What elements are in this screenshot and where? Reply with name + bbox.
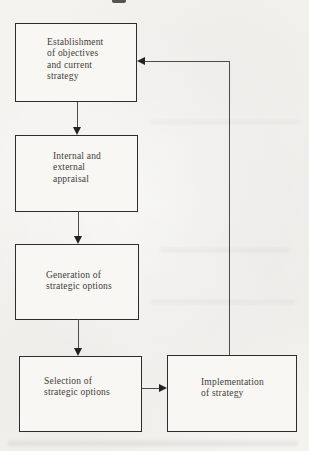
flow-node-generation-label: Generation of strategic options: [46, 270, 134, 293]
scan-noise: [160, 248, 290, 252]
feedback-implementation-to-establishment-horizontal-line: [144, 61, 230, 62]
flow-node-establishment-label: Establishment of objectives and current …: [47, 37, 132, 82]
arrow-establishment-to-appraisal-line: [77, 102, 78, 128]
scan-noise: [8, 441, 298, 446]
flow-node-implementation-label: Implementation of strategy: [201, 377, 292, 400]
scan-smudge: [112, 0, 126, 3]
arrow-down-icon: [74, 236, 82, 244]
scan-noise: [150, 120, 300, 124]
feedback-implementation-to-establishment-vertical-line: [229, 61, 230, 355]
flowchart-canvas: Establishment of objectives and current …: [0, 0, 309, 451]
flow-node-selection: Selection of strategic options: [19, 356, 142, 432]
arrow-generation-to-selection-line: [78, 319, 79, 349]
flow-node-appraisal-label: Internal and external appraisal: [53, 151, 133, 185]
flow-node-establishment: Establishment of objectives and current …: [15, 23, 137, 102]
flow-node-selection-label: Selection of strategic options: [44, 376, 137, 399]
flow-node-generation: Generation of strategic options: [15, 244, 139, 320]
arrow-appraisal-to-generation-line: [78, 211, 79, 237]
arrow-down-icon: [73, 127, 81, 135]
arrow-right-icon: [159, 384, 167, 392]
flow-node-implementation: Implementation of strategy: [167, 355, 297, 432]
arrow-down-icon: [74, 348, 82, 356]
arrow-selection-to-implementation-line: [142, 388, 160, 389]
arrow-left-icon: [137, 57, 145, 65]
scan-noise: [150, 300, 295, 304]
flow-node-appraisal: Internal and external appraisal: [15, 135, 138, 212]
